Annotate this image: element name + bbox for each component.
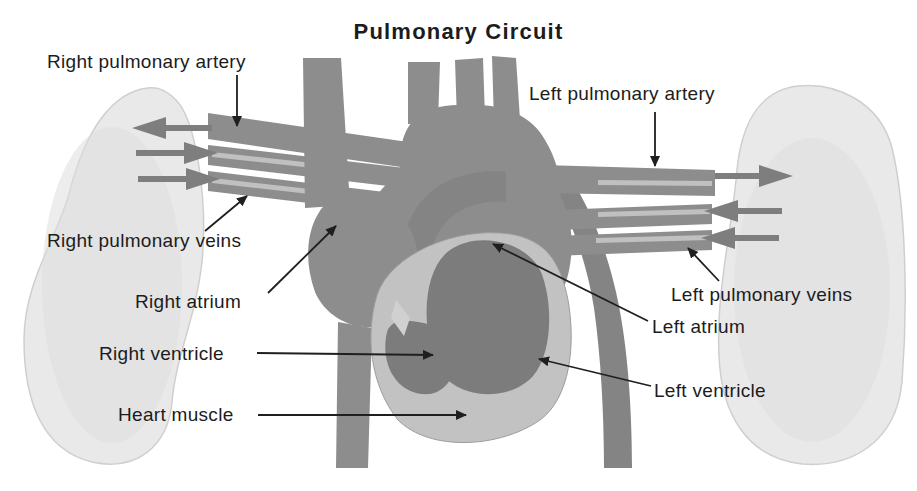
left-pulmonary-veins-pointer xyxy=(688,248,719,281)
label-left-pulmonary-artery: Left pulmonary artery xyxy=(529,83,715,104)
pulmonary-circuit-diagram: Pulmonary Circuit Right pulmonary artery… xyxy=(0,0,917,491)
vein-highlight xyxy=(598,180,712,186)
left-lung-illustration xyxy=(719,86,906,465)
label-right-pulmonary-veins: Right pulmonary veins xyxy=(47,230,241,251)
label-right-ventricle: Right ventricle xyxy=(99,343,224,364)
diagram-title: Pulmonary Circuit xyxy=(0,19,917,45)
superior-vena-cava xyxy=(303,58,350,208)
inferior-vessel xyxy=(336,322,372,468)
label-heart-muscle: Heart muscle xyxy=(118,404,234,425)
label-left-ventricle: Left ventricle xyxy=(654,380,766,401)
label-right-pulmonary-artery: Right pulmonary artery xyxy=(47,51,246,72)
left-pulmonary-artery-vessel xyxy=(470,163,715,196)
label-left-atrium: Left atrium xyxy=(652,316,745,337)
label-left-pulmonary-veins: Left pulmonary veins xyxy=(671,284,852,305)
label-right-atrium: Right atrium xyxy=(135,291,241,312)
right-pulmonary-veins-pointer xyxy=(205,196,247,231)
